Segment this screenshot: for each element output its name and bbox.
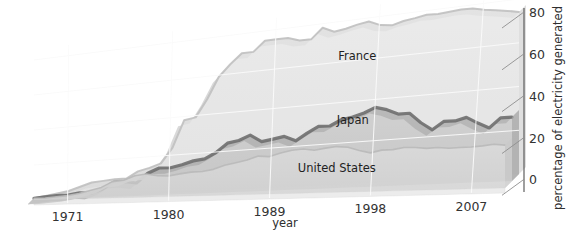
y-tick-label: 20 (529, 131, 545, 146)
x-tick-label: 1971 (52, 209, 84, 224)
y-axis-title: percentage of electricity generated (551, 6, 565, 210)
x-tick-label: 1998 (354, 201, 386, 216)
series-label-united-states: United States (298, 161, 376, 175)
nuclear-share-area-chart: FranceJapanUnited States 020406080197119… (0, 0, 569, 233)
y-tick-label: 40 (529, 89, 545, 104)
gridline-x (68, 45, 69, 203)
y-tick-label: 60 (529, 47, 545, 62)
x-tick-label: 2007 (455, 199, 487, 214)
y-tick-label: 80 (529, 5, 545, 20)
x-tick-label: 1980 (153, 207, 185, 222)
chart-canvas: FranceJapanUnited States 020406080197119… (0, 0, 569, 233)
y-tick-label: 0 (529, 172, 537, 187)
series-label-france: France (338, 49, 376, 63)
plot-area (28, 5, 526, 205)
x-axis-title: year (272, 216, 298, 230)
series-label-japan: Japan (336, 113, 369, 127)
